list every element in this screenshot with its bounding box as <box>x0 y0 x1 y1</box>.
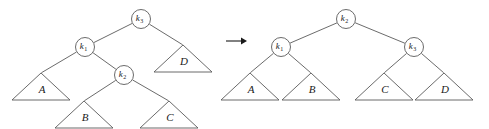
subtree-label: D <box>440 83 449 95</box>
subtree-label: D <box>179 55 188 67</box>
tree-node: k2 <box>337 10 356 29</box>
tree-edges-before <box>41 23 182 100</box>
tree-node: k3 <box>132 10 151 29</box>
tree-edge <box>288 53 310 72</box>
tree-nodes-after: k2k1k3 <box>272 10 424 57</box>
subtree-label: B <box>82 111 89 123</box>
tree-edge <box>355 23 405 43</box>
tree-edge <box>384 53 406 72</box>
tree-node: k2 <box>115 66 134 85</box>
tree-edge <box>290 23 337 43</box>
tree-edge <box>133 80 169 101</box>
tree-node: k1 <box>272 38 291 57</box>
tree-rotation-figure: ABCD k3k1k2 ABCD k2k1k3 <box>0 0 489 129</box>
after-rotation-tree: ABCD k2k1k3 <box>221 10 473 101</box>
tree-edge <box>41 52 76 73</box>
transforms-into-arrow <box>226 38 247 45</box>
subtree-triangles-before: ABCD <box>12 45 212 128</box>
subtree-label: B <box>309 83 316 95</box>
tree-edge <box>149 24 182 45</box>
tree-edge <box>421 53 443 72</box>
tree-node: k3 <box>405 38 424 57</box>
tree-edge <box>250 53 273 72</box>
tree-edge <box>84 80 115 100</box>
before-rotation-tree: ABCD k3k1k2 <box>12 10 212 129</box>
subtree-label: C <box>166 111 174 123</box>
tree-nodes-before: k3k1k2 <box>76 10 151 85</box>
subtree-label: A <box>38 83 46 95</box>
tree-edge <box>93 53 116 69</box>
tree-edge <box>94 23 132 42</box>
subtree-label: C <box>381 83 389 95</box>
subtree-label: A <box>247 83 255 95</box>
tree-diagram-canvas: ABCD k3k1k2 ABCD k2k1k3 <box>0 0 489 129</box>
subtree-triangles-after: ABCD <box>221 73 473 100</box>
tree-node: k1 <box>76 38 95 57</box>
arrow-head <box>241 38 247 45</box>
